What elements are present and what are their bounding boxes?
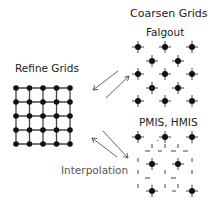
grid-node [13,85,19,91]
grid-node [27,141,33,147]
coarse-node [135,98,141,104]
coarse-node [189,98,195,104]
refine-grids-label: Refine Grids [15,62,79,74]
grid-node [27,85,33,91]
coarse-node [175,58,181,64]
grid-node [54,85,60,91]
grid-node [27,127,33,133]
grid-node [40,141,46,147]
coarsen-grids-title: Coarsen Grids [130,7,207,20]
coarse-node [135,134,141,140]
grid-node [67,141,73,147]
grid-node [67,85,73,91]
grid-node [13,141,19,147]
interpolation-label: Interpolation [61,164,128,176]
restriction-arrows [92,71,129,158]
pmis-hmis-grid [132,131,198,197]
coarse-node [149,161,155,167]
coarse-node [162,134,168,140]
coarse-node [135,44,141,50]
coarse-node [149,58,155,64]
grid-node [27,113,33,119]
grid-node [67,127,73,133]
coarse-node [135,71,141,77]
grid-node [54,99,60,105]
grid-node [13,99,19,105]
grid-node [40,99,46,105]
grid-node [27,99,33,105]
coarse-node [189,188,195,194]
coarse-node [162,44,168,50]
grid-node [67,113,73,119]
grid-node [54,141,60,147]
refine-grid [13,85,73,147]
falgout-grid [132,41,198,107]
coarse-node [189,134,195,140]
grid-node [13,127,19,133]
grid-node [40,113,46,119]
grid-node [54,127,60,133]
coarse-node [189,71,195,77]
grid-node [40,127,46,133]
coarse-node [149,188,155,194]
grid-node [40,85,46,91]
grid-node [54,113,60,119]
coarse-node [189,44,195,50]
coarse-node [175,85,181,91]
pmis-hmis-label: PMIS, HMIS [139,116,198,128]
coarse-node [175,161,181,167]
coarse-node [149,85,155,91]
coarse-node [162,98,168,104]
grid-node [13,113,19,119]
grid-node [67,99,73,105]
falgout-label: Falgout [146,26,184,38]
coarse-node [162,71,168,77]
